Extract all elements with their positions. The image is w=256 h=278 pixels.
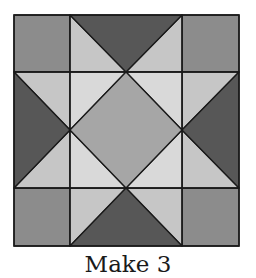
quilt-block <box>0 0 256 278</box>
corner-square-bl <box>14 188 70 246</box>
corner-square-br <box>182 188 239 246</box>
corner-square-tl <box>14 15 70 72</box>
corner-square-tr <box>182 15 239 72</box>
caption: Make 3 <box>0 251 256 278</box>
